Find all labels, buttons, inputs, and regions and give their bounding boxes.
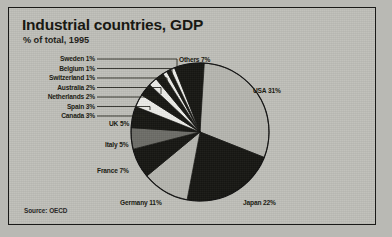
slice-label-sweden: Sweden 1% xyxy=(17,56,95,63)
source-note: Source: OECD xyxy=(24,207,67,214)
slice-label-japan: Japan 22% xyxy=(243,200,276,207)
slice-label-germany: Germany 11% xyxy=(120,200,162,207)
slice-label-italy: Italy 5% xyxy=(105,142,128,149)
slice-label-uk: UK 5% xyxy=(109,121,129,128)
slice-label-others: Others 7% xyxy=(179,57,210,64)
slice-label-switzerland: Switzerland 1% xyxy=(17,75,95,82)
slice-label-usa: USA 31% xyxy=(253,88,281,95)
slice-label-canada: Canada 3% xyxy=(17,113,95,120)
chart-card: Industrial countries, GDP % of total, 19… xyxy=(8,7,376,225)
slice-label-spain: Spain 3% xyxy=(17,104,95,111)
slice-label-belgium: Belgium 1% xyxy=(17,66,95,73)
slice-label-netherlands: Netherlands 2% xyxy=(17,94,95,101)
slice-label-australia: Australia 2% xyxy=(17,85,95,92)
slice-label-france: France 7% xyxy=(97,168,129,175)
